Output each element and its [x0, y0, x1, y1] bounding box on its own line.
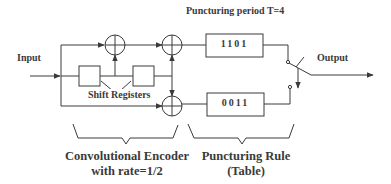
encoder-brace	[73, 124, 178, 144]
puncture-table-2-pattern: 0011	[207, 97, 264, 108]
puncture-table-1-pattern: 1101	[206, 38, 263, 49]
encoder-caption-line2: with rate=1/2	[44, 164, 210, 179]
puncturing-period-title: Puncturing period T=4	[186, 5, 284, 16]
encoder-caption-line1: Convolutional Encoder	[44, 149, 210, 164]
puncturing-caption: Puncturing Rule (Table)	[196, 149, 296, 179]
puncturing-caption-line1: Puncturing Rule	[196, 149, 296, 164]
encoder-caption: Convolutional Encoder with rate=1/2	[44, 149, 210, 179]
switch-arm	[289, 63, 311, 75]
puncturing-brace	[188, 124, 294, 144]
shift-register-1	[79, 66, 100, 86]
switch-contact-2	[288, 85, 291, 88]
output-label: Output	[317, 52, 348, 63]
input-label: Input	[17, 52, 41, 63]
shift-registers-label: Shift Registers	[88, 89, 151, 100]
puncturing-caption-line2: (Table)	[196, 164, 296, 179]
shift-register-2	[133, 66, 154, 86]
